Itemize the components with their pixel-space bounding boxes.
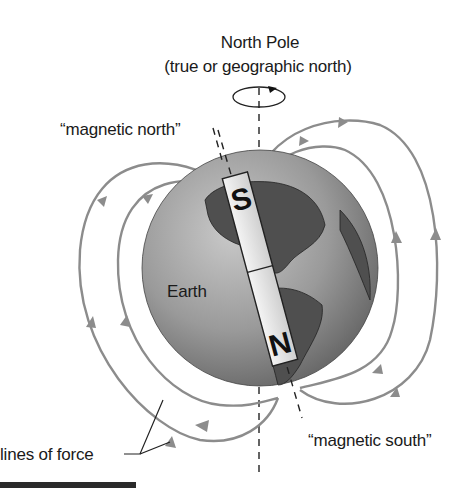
north-pole-sublabel: (true or geographic north) — [164, 57, 352, 76]
lines-of-force-leader — [124, 400, 170, 454]
magnetic-north-leader — [213, 128, 222, 160]
magnetic-north-label: “magnetic north” — [60, 120, 181, 139]
caption-bar — [0, 482, 136, 488]
magnetic-south-label: “magnetic south” — [308, 431, 432, 450]
magnetic-field-diagram: North Pole (true or geographic north) — [0, 0, 470, 488]
north-pole-label: North Pole — [221, 33, 299, 52]
lines-of-force-label: lines of force — [0, 445, 94, 464]
earth-label: Earth — [167, 282, 207, 301]
